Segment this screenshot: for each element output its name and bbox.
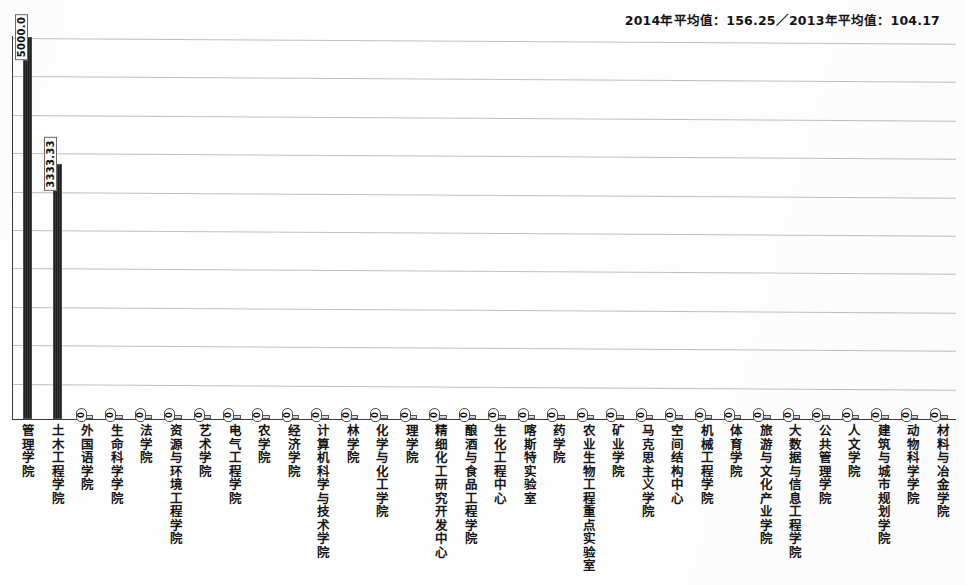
category-label: 药学院 [551,424,565,585]
bar[interactable]: 0 [80,415,93,419]
bar[interactable]: 0 [581,415,594,419]
bar-value-label: 0 [783,408,794,422]
bar-value-label: 0 [341,408,352,422]
bar-value-label: 0 [842,408,853,422]
category-label: 法学院 [138,424,152,585]
category-label-slot: 电气工程学院 [219,424,249,585]
category-label: 马克思主义学院 [640,424,654,585]
bar[interactable]: 0 [375,415,388,419]
bar[interactable]: 0 [522,415,535,419]
category-label: 体育学院 [728,424,742,585]
bar[interactable]: 0 [640,415,653,419]
bar-slot: 0 [308,36,337,419]
bar-value-label: 0 [135,408,146,422]
bar[interactable]: 0 [139,415,152,419]
category-label: 酿酒与食品工程学院 [463,424,477,585]
bar-value-label: 0 [901,408,912,422]
category-label-slot: 外国语学院 [71,424,101,585]
category-label-slot: 生命科学学院 [101,424,131,585]
category-label-slot: 经济学院 [278,424,308,585]
category-label: 矿业学院 [610,424,624,585]
bar-value-label: 0 [518,408,529,422]
category-label: 管理学院 [20,424,34,585]
bar-slot: 0 [190,36,219,419]
bar[interactable]: 0 [728,415,741,419]
bar-slot: 0 [278,36,307,419]
bar[interactable]: 0 [198,415,211,419]
bar[interactable]: 0 [787,415,800,419]
bar-slot: 0 [249,36,278,419]
category-label: 经济学院 [286,424,300,585]
category-label: 材料与冶金学院 [935,424,949,585]
bar-slot: 0 [868,36,897,419]
bar-slot: 0 [337,36,366,419]
bar-value-label: 0 [252,408,263,422]
category-label-slot: 机械工程学院 [691,424,721,585]
category-label: 生命科学学院 [109,424,123,585]
category-axis-labels: 管理学院土木工程学院外国语学院生命科学学院法学院资源与环境工程学院艺术学院电气工… [12,424,956,585]
bar-value-label: 0 [871,408,882,422]
bar-slot: 0 [455,36,484,419]
bar-value-label: 0 [753,408,764,422]
category-label: 建筑与城市规划学院 [876,424,890,585]
category-label: 大数据与信息工程学院 [787,424,801,585]
category-label: 人文学院 [846,424,860,585]
category-label: 喀斯特实验室 [522,424,536,585]
category-label-slot: 农业生物工程重点实验室 [573,424,603,585]
bar[interactable]: 0 [935,415,948,419]
category-label-slot: 建筑与城市规划学院 [868,424,898,585]
bar[interactable]: 0 [463,415,476,419]
bar-slot: 0 [779,36,808,419]
bar-value-label: 0 [459,408,470,422]
bar[interactable]: 0 [404,415,417,419]
bar-slot: 0 [897,36,926,419]
bar-slot: 0 [72,36,101,419]
bar-slot: 0 [367,36,396,419]
bar-value-label: 0 [577,408,588,422]
category-label: 生化工程中心 [492,424,506,585]
bar[interactable]: 0 [257,415,270,419]
bar[interactable]: 0 [286,415,299,419]
category-label: 电气工程学院 [227,424,241,585]
category-label-slot: 管理学院 [12,424,42,585]
bar[interactable]: 0 [611,415,624,419]
bar[interactable]: 0 [846,415,859,419]
bar[interactable]: 0 [110,415,123,419]
bar[interactable]: 0 [345,415,358,419]
bar-slot: 0 [396,36,425,419]
bar-slot: 0 [750,36,779,419]
category-label-slot: 药学院 [543,424,573,585]
bar-value-label: 0 [665,408,676,422]
category-label: 理学院 [404,424,418,585]
bar-slot: 0 [131,36,160,419]
bar-value-label: 0 [547,408,558,422]
bar[interactable]: 0 [699,415,712,419]
bar-slot: 0 [720,36,749,419]
bar[interactable]: 5000.0 [23,37,32,419]
category-label-slot: 空间结构中心 [661,424,691,585]
category-label: 农学院 [256,424,270,585]
category-label-slot: 旅游与文化产业学院 [750,424,780,585]
bar[interactable]: 0 [876,415,889,419]
bar[interactable]: 0 [670,415,683,419]
bar[interactable]: 0 [493,415,506,419]
bar[interactable]: 0 [434,415,447,419]
category-label-slot: 精细化工研究开发中心 [425,424,455,585]
bar-value-label: 0 [311,408,322,422]
bar[interactable]: 0 [552,415,565,419]
category-label-slot: 人文学院 [838,424,868,585]
bar-value-label: 5000.0 [15,14,28,60]
bar[interactable]: 0 [758,415,771,419]
bar[interactable]: 0 [316,415,329,419]
category-label-slot: 材料与冶金学院 [927,424,957,585]
bar-value-label: 0 [223,408,234,422]
bar[interactable]: 0 [817,415,830,419]
bar[interactable]: 0 [905,415,918,419]
bar[interactable]: 3333.33 [53,164,62,419]
bar-value-label: 0 [695,408,706,422]
bar-slot: 0 [602,36,631,419]
bar[interactable]: 0 [228,415,241,419]
bar-slot: 0 [426,36,455,419]
category-label: 精细化工研究开发中心 [433,424,447,585]
bar[interactable]: 0 [169,415,182,419]
